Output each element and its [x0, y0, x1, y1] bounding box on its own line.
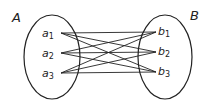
element-a1: a1 [42, 27, 54, 41]
set-mapping-diagram: A B a1 a2 a3 b1 b2 b3 [0, 0, 213, 109]
element-a3: a3 [42, 67, 54, 81]
element-a2: a2 [42, 47, 54, 61]
edge-a3-b2 [61, 52, 156, 73]
element-b3: b3 [158, 65, 170, 79]
edge-a3-b3 [61, 72, 156, 73]
edge-a2-b1 [61, 32, 156, 53]
set-a-label: A [11, 10, 21, 25]
mapping-edges [61, 32, 156, 73]
set-b-label: B [190, 8, 199, 23]
element-b2: b2 [158, 45, 170, 59]
element-b1: b1 [158, 25, 170, 39]
